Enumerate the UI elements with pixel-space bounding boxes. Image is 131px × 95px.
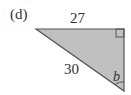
hypotenuse-label: 30 <box>64 62 79 77</box>
right-triangle <box>36 29 124 91</box>
part-label: (d) <box>10 7 28 22</box>
angle-label: b <box>113 70 120 84</box>
side-top-label: 27 <box>70 11 85 26</box>
